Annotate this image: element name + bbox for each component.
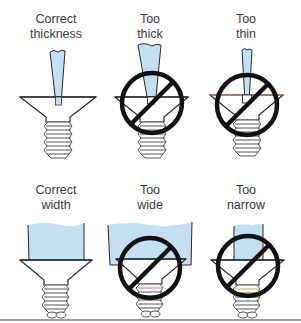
panel-correct-width: Correct width xyxy=(6,163,106,323)
screw-with-too-wide-blade-icon xyxy=(100,163,200,323)
panel-correct-thickness: Correct thickness xyxy=(6,0,106,160)
screw-with-too-thick-blade-icon xyxy=(100,0,200,165)
bottom-divider xyxy=(0,319,301,321)
screw-with-too-thin-blade-icon xyxy=(196,0,296,165)
panel-too-narrow: Too narrow xyxy=(196,163,296,323)
screw-with-correct-width-blade-icon xyxy=(6,163,106,323)
panel-too-wide: Too wide xyxy=(100,163,200,323)
screw-with-correct-thickness-blade-icon xyxy=(6,0,106,165)
panel-too-thin: Too thin xyxy=(196,0,296,160)
panel-too-thick: Too thick xyxy=(100,0,200,160)
screw-with-too-narrow-blade-icon xyxy=(196,163,296,323)
